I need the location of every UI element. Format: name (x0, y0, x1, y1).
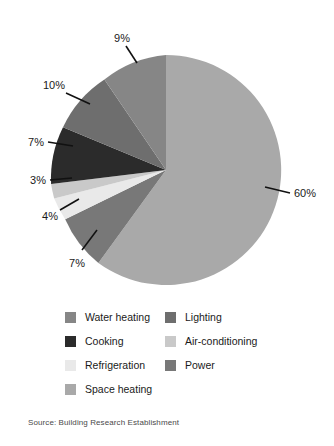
legend-label-power: Power (185, 359, 215, 371)
legend-item-refrigeration[interactable]: Refrigeration (64, 353, 152, 377)
legend-item-power[interactable]: Power (164, 353, 257, 377)
pie-chart-svg: 60% 7% 4% 3% 7% 10% 9% (0, 0, 334, 300)
pie-chart-area: 60% 7% 4% 3% 7% 10% 9% (0, 0, 334, 300)
legend-column-right: Lighting Air-conditioning Power (164, 305, 257, 377)
pie-label-9: 9% (114, 32, 130, 44)
legend-swatch-water-heating (64, 311, 77, 324)
pie-label-7-power: 7% (69, 257, 85, 269)
legend-swatch-cooking (64, 335, 77, 348)
legend-label-refrigeration: Refrigeration (85, 359, 145, 371)
legend-label-lighting: Lighting (185, 311, 222, 323)
legend-swatch-refrigeration (64, 359, 77, 372)
chart-source-note: Source: Building Research Establishment (28, 418, 179, 427)
pie-slices (51, 55, 281, 285)
legend-label-space-heating: Space heating (85, 383, 152, 395)
legend-swatch-lighting (164, 311, 177, 324)
chart-legend: Water heating Cooking Refrigeration Spac… (0, 305, 334, 405)
pie-label-4: 4% (42, 210, 58, 222)
legend-column-left: Water heating Cooking Refrigeration Spac… (64, 305, 152, 401)
legend-item-lighting[interactable]: Lighting (164, 305, 257, 329)
leader-line-9 (126, 46, 137, 63)
pie-label-10: 10% (43, 79, 65, 91)
legend-label-water-heating: Water heating (85, 311, 150, 323)
legend-item-space-heating[interactable]: Space heating (64, 377, 152, 401)
legend-item-air-conditioning[interactable]: Air-conditioning (164, 329, 257, 353)
pie-label-3: 3% (30, 174, 46, 186)
legend-item-cooking[interactable]: Cooking (64, 329, 152, 353)
pie-label-60: 60% (294, 187, 316, 199)
pie-label-7-cooking: 7% (28, 136, 44, 148)
legend-item-water-heating[interactable]: Water heating (64, 305, 152, 329)
legend-label-cooking: Cooking (85, 335, 124, 347)
legend-swatch-space-heating (64, 383, 77, 396)
legend-swatch-power (164, 359, 177, 372)
legend-label-air-conditioning: Air-conditioning (185, 335, 257, 347)
legend-swatch-air-conditioning (164, 335, 177, 348)
